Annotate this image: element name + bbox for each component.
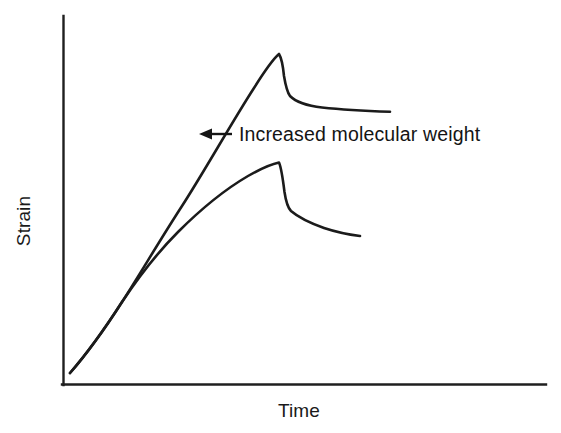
y-axis-label: Strain	[13, 196, 34, 246]
x-axis-label: Time	[278, 400, 320, 421]
annotation-label: Increased molecular weight	[239, 123, 481, 145]
chart-background	[0, 0, 561, 433]
chart-figure: Increased molecular weight Strain Time	[0, 0, 561, 433]
strain-vs-time-chart: Increased molecular weight Strain Time	[0, 0, 561, 433]
